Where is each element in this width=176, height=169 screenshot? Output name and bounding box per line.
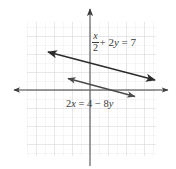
fraction-x-over-2: x 2: [92, 31, 99, 53]
line-2-equation-label: 2x = 4 − 8y: [66, 99, 113, 110]
equation-2-variable-y: y: [109, 98, 114, 109]
fraction-numerator: x: [92, 31, 98, 41]
equation-1-remainder: + 2y = 7: [100, 37, 137, 48]
equation-1-plus-two: + 2: [100, 36, 114, 48]
equation-2-middle: = 4 − 8: [76, 98, 109, 109]
coordinate-plane-figure: [0, 0, 176, 169]
fraction-denominator: 2: [92, 43, 99, 53]
line-1-equation-label: x 2 + 2y = 7: [92, 31, 136, 53]
equation-1-equals-seven: = 7: [119, 36, 136, 48]
